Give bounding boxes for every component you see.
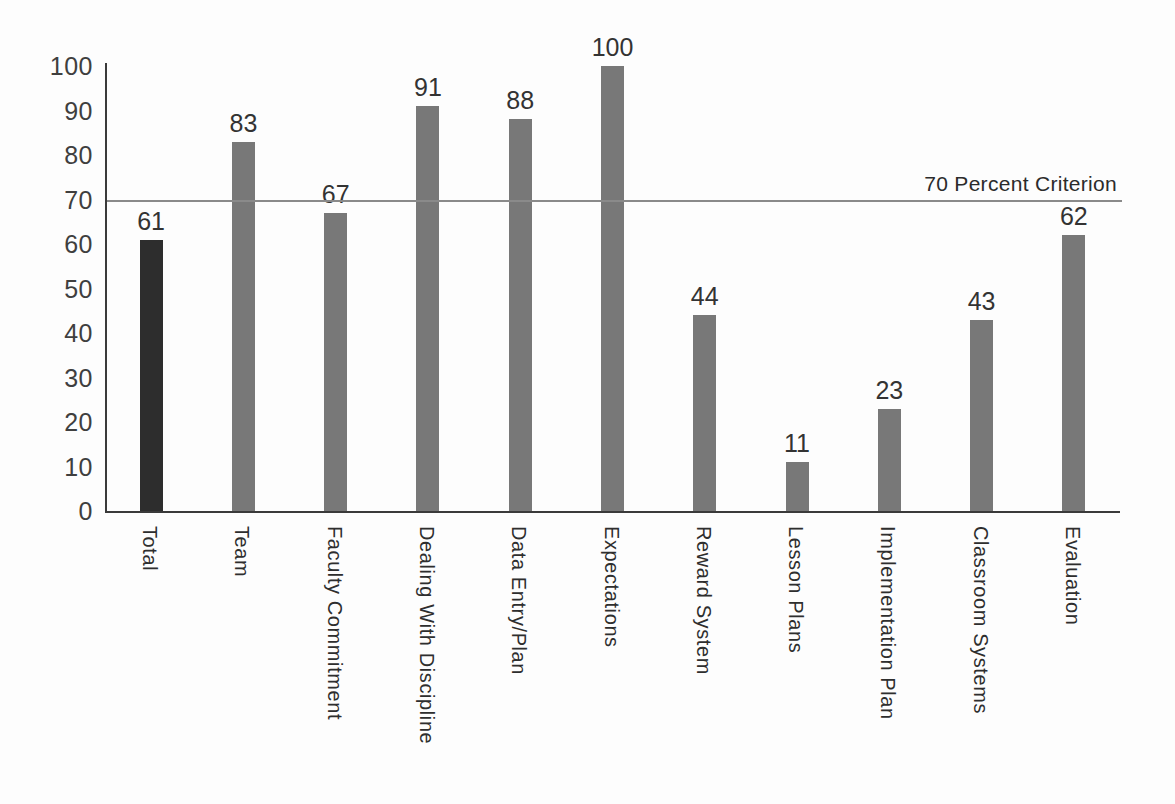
category-label: Faculty Commitment bbox=[323, 526, 346, 720]
category-label: Implementation Plan bbox=[876, 526, 899, 720]
bar-value-label: 11 bbox=[784, 429, 810, 458]
bar bbox=[970, 320, 993, 511]
y-tick-label: 30 bbox=[64, 363, 93, 392]
criterion-label: 70 Percent Criterion bbox=[924, 172, 1117, 196]
criterion-line bbox=[105, 200, 1122, 202]
bar bbox=[786, 462, 809, 511]
bar-value-label: 83 bbox=[230, 109, 258, 138]
y-tick-label: 60 bbox=[64, 230, 93, 259]
y-tick-label: 20 bbox=[64, 408, 93, 437]
y-tick-label: 10 bbox=[64, 452, 93, 481]
bar bbox=[232, 142, 255, 511]
category-label: Data Entry/Plan bbox=[507, 526, 530, 675]
bar-value-label: 61 bbox=[137, 207, 165, 236]
bar bbox=[601, 66, 624, 511]
bar-value-label: 23 bbox=[875, 376, 903, 405]
x-axis-line bbox=[105, 511, 1120, 513]
y-tick-label: 80 bbox=[64, 141, 93, 170]
bar bbox=[1062, 235, 1085, 511]
bar bbox=[509, 119, 532, 511]
category-label: Classroom Systems bbox=[969, 526, 992, 714]
category-label: Lesson Plans bbox=[784, 526, 807, 653]
bar-value-label: 88 bbox=[506, 86, 534, 115]
category-label: Reward System bbox=[692, 526, 715, 675]
bar-value-label: 43 bbox=[968, 287, 996, 316]
bar bbox=[693, 315, 716, 511]
category-label: Team bbox=[230, 526, 253, 577]
y-axis-line bbox=[105, 63, 107, 513]
bar bbox=[416, 106, 439, 511]
bar-value-label: 100 bbox=[592, 33, 634, 62]
y-tick-label: 40 bbox=[64, 319, 93, 348]
bar-value-label: 44 bbox=[691, 282, 719, 311]
y-tick-label: 100 bbox=[50, 52, 93, 81]
y-tick-label: 90 bbox=[64, 96, 93, 125]
category-label: Dealing With Discipline bbox=[415, 526, 438, 744]
bar-value-label: 91 bbox=[414, 73, 442, 102]
bar bbox=[140, 240, 163, 511]
bar bbox=[878, 409, 901, 511]
bar-chart-figure: 010203040506070809010061Total83Team67Fac… bbox=[0, 0, 1175, 804]
bar bbox=[324, 213, 347, 511]
bar-value-label: 62 bbox=[1060, 202, 1088, 231]
y-tick-label: 0 bbox=[79, 497, 93, 526]
y-tick-label: 70 bbox=[64, 185, 93, 214]
category-label: Expectations bbox=[600, 526, 623, 648]
bar-value-label: 67 bbox=[322, 180, 350, 209]
category-label: Evaluation bbox=[1061, 526, 1084, 625]
category-label: Total bbox=[138, 526, 161, 571]
y-tick-label: 50 bbox=[64, 274, 93, 303]
